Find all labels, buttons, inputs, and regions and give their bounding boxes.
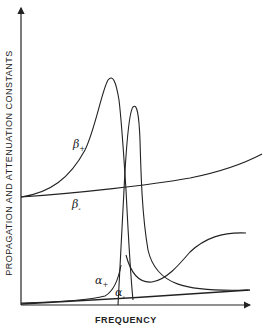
label-alpha-plus-sub: + (102, 281, 108, 289)
label-beta-minus-sub: - (78, 205, 80, 213)
curve-alpha-plus-s (126, 233, 246, 282)
label-beta-minus: β- (72, 198, 81, 213)
x-axis-label: FREQUENCY (95, 315, 157, 325)
curve-beta-plus (21, 78, 133, 300)
label-alpha-minus-sub: - (122, 293, 124, 301)
label-beta-plus: β+ (73, 138, 85, 153)
chart-canvas (0, 0, 263, 329)
label-alpha-minus: α- (115, 286, 125, 301)
curve-alpha-minus (21, 290, 250, 304)
y-axis-label: PROPAGATION AND ATTENUATION CONSTANTS (4, 50, 14, 276)
label-beta-plus-sub: + (79, 145, 85, 153)
curve-alpha-plus-peak (118, 106, 248, 305)
label-alpha-plus: α+ (95, 274, 108, 289)
